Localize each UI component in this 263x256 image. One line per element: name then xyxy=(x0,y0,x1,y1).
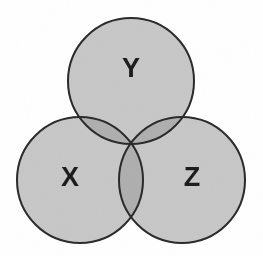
venn-diagram-canvas: Y X Z xyxy=(0,0,263,256)
venn-diagram-figure: Y X Z xyxy=(0,0,263,256)
set-label-z: Z xyxy=(184,162,201,192)
set-label-x: X xyxy=(61,162,79,192)
set-label-y: Y xyxy=(122,53,140,83)
